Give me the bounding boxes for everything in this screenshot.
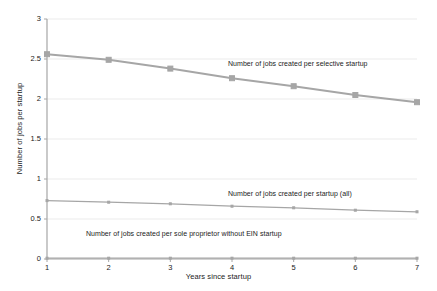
series-marker (46, 257, 48, 259)
series-marker (231, 257, 233, 259)
x-tick-label: 3 (160, 263, 180, 272)
series-marker (293, 207, 295, 209)
series-marker (46, 200, 48, 202)
series-marker (291, 84, 296, 89)
x-tick-label: 4 (222, 263, 242, 272)
series-marker (45, 52, 50, 57)
series-marker (108, 201, 110, 203)
series-marker (108, 257, 110, 259)
y-tick-label: 0 (15, 254, 41, 263)
series-marker (354, 257, 356, 259)
y-tick-label: 2 (15, 94, 41, 103)
chart-plot-area (0, 0, 437, 291)
series-marker (416, 257, 418, 259)
y-tick-label: 1.5 (15, 134, 41, 143)
x-tick-label: 6 (345, 263, 365, 272)
x-tick-label: 7 (407, 263, 427, 272)
series-marker (106, 57, 111, 62)
series-marker (353, 93, 358, 98)
y-tick-label: 2.5 (15, 54, 41, 63)
series-marker (168, 66, 173, 71)
series-marker (231, 205, 233, 207)
y-tick-label: 0.5 (15, 214, 41, 223)
y-tick-label: 1 (15, 174, 41, 183)
series-marker (415, 100, 420, 105)
series-marker (230, 76, 235, 81)
series-marker (354, 209, 356, 211)
y-tick-label: 3 (15, 14, 41, 23)
series-marker (293, 257, 295, 259)
series-label: Number of jobs created per startup (all) (228, 190, 352, 197)
x-axis-title: Years since startup (0, 272, 437, 281)
series-label: Number of jobs created per sole propriet… (86, 230, 282, 237)
x-tick-label: 1 (37, 263, 57, 272)
series-marker (416, 211, 418, 213)
x-tick-label: 5 (284, 263, 304, 272)
series-marker (169, 203, 171, 205)
series-label: Number of jobs created per selective sta… (228, 60, 368, 67)
x-tick-label: 2 (99, 263, 119, 272)
series-marker (169, 257, 171, 259)
chart-container: Number of jobs per startup Years since s… (0, 0, 437, 291)
